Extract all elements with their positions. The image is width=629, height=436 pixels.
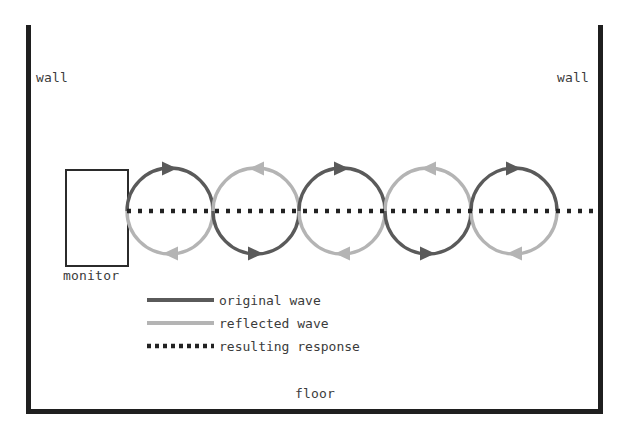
loop-1-bottom-arrow-left-icon — [163, 247, 178, 261]
wave-loop-2 — [213, 162, 299, 261]
loop-5-bottom-arrow-left-icon — [507, 247, 522, 261]
loop-1-top-arrow-right-icon — [162, 162, 177, 176]
loop-2-top-arrow-left-icon — [249, 162, 264, 176]
diagram-canvas — [0, 0, 629, 436]
wall-left-label: wall — [36, 70, 68, 85]
loop-3-top-arrow-right-icon — [334, 162, 349, 176]
monitor-label: monitor — [63, 268, 119, 283]
legend-item-original-wave: original wave — [219, 293, 321, 308]
legend-item-reflected-wave: reflected wave — [219, 316, 329, 331]
monitor-box — [66, 170, 128, 266]
legend-item-resulting-response: resulting response — [219, 339, 360, 354]
loop-3-bottom-arrow-left-icon — [335, 247, 350, 261]
wall-right-label: wall — [557, 70, 589, 85]
standing-wave-diagram: wall wall monitor floor original wave re… — [0, 0, 629, 436]
loop-4-bottom-arrow-right-icon — [420, 247, 435, 261]
floor-label: floor — [295, 386, 335, 401]
loop-4-top-arrow-left-icon — [421, 162, 436, 176]
loop-5-top-arrow-right-icon — [506, 162, 521, 176]
legend-samples — [147, 300, 214, 346]
loop-2-bottom-arrow-right-icon — [248, 247, 263, 261]
